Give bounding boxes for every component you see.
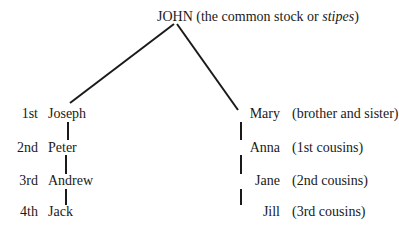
root-label: JOHN (the common stock or stipes) [157, 10, 359, 24]
left-name: Jack [48, 205, 73, 219]
left-name: Joseph [48, 107, 86, 121]
right-name: Anna [200, 141, 280, 155]
left-name: Andrew [48, 174, 93, 188]
degree-label: 1st [0, 107, 38, 121]
degree-label: 2nd [0, 141, 38, 155]
root-note: (the common stock or stipes) [196, 9, 359, 24]
right-name: Jill [200, 205, 280, 219]
relation-label: (2nd cousins) [292, 174, 368, 188]
right-name: Jane [200, 174, 280, 188]
branch-left [70, 24, 174, 103]
relation-label: (3rd cousins) [292, 205, 366, 219]
relation-label: (1st cousins) [292, 141, 363, 155]
relation-label: (brother and sister) [292, 107, 399, 121]
branch-right [177, 24, 238, 110]
root-name: JOHN [157, 9, 193, 24]
degree-label: 3rd [0, 174, 38, 188]
degree-label: 4th [0, 205, 38, 219]
right-name: Mary [200, 107, 280, 121]
left-name: Peter [48, 141, 77, 155]
